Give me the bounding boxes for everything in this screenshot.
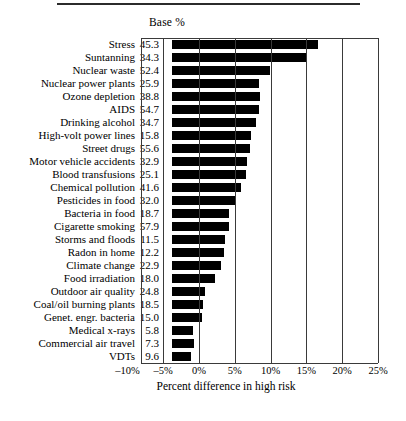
chart-row: VDTs9.6	[0, 350, 406, 363]
category-label: Street drugs	[0, 142, 139, 155]
gridline--5	[163, 38, 164, 363]
base-column-top-border	[141, 38, 163, 39]
gridline-15	[306, 38, 307, 363]
chart-row: Radon in home12.2	[0, 246, 406, 259]
base-percent-value: 45.3	[139, 38, 163, 51]
x-tick-label: 15%	[297, 364, 316, 377]
category-label: Genet. engr. bacteria	[0, 311, 139, 324]
base-percent-value: 5.8	[139, 324, 163, 337]
bar	[172, 222, 229, 232]
bar	[172, 196, 236, 206]
category-label: Outdoor air quality	[0, 285, 139, 298]
chart-row: High-volt power lines15.8	[0, 129, 406, 142]
chart-row: Stress45.3	[0, 38, 406, 51]
bar	[172, 79, 259, 89]
bar	[172, 53, 306, 63]
bar	[172, 118, 256, 128]
x-tick-label: 10%	[261, 364, 280, 377]
bar	[172, 144, 250, 154]
base-percent-value: 38.8	[139, 90, 163, 103]
category-label: Nuclear power plants	[0, 77, 139, 90]
base-percent-value: 25.9	[139, 77, 163, 90]
chart-row: Coal/oil burning plants18.5	[0, 298, 406, 311]
category-label: Motor vehicle accidents	[0, 155, 139, 168]
base-percent-value: 9.6	[139, 350, 163, 363]
base-percent-value: 15.8	[139, 129, 163, 142]
category-label: Storms and floods	[0, 233, 139, 246]
category-label: Commercial air travel	[0, 337, 139, 350]
bar	[172, 66, 270, 76]
bar	[172, 209, 229, 219]
gridline-10	[271, 38, 272, 363]
category-label: AIDS	[0, 103, 139, 116]
chart-row: Bacteria in food18.7	[0, 207, 406, 220]
x-axis-tick-labels: –10%–5%0%5%10%15%20%25%	[0, 364, 406, 378]
chart-row: Street drugs55.6	[0, 142, 406, 155]
chart-row: Chemical pollution41.6	[0, 181, 406, 194]
chart-row: Pesticides in food32.0	[0, 194, 406, 207]
bar	[172, 274, 215, 284]
bar	[172, 261, 221, 271]
base-percent-value: 25.1	[139, 168, 163, 181]
category-label: VDTs	[0, 350, 139, 363]
chart-row: Cigarette smoking57.9	[0, 220, 406, 233]
x-tick-label: 20%	[333, 364, 352, 377]
bar	[172, 326, 193, 336]
chart-row: Climate change22.9	[0, 259, 406, 272]
category-label: Drinking alcohol	[0, 116, 139, 129]
gridline-0	[199, 38, 200, 363]
base-column-left-border	[141, 38, 142, 363]
chart-row: Ozone depletion38.8	[0, 90, 406, 103]
chart-row: Medical x-rays5.8	[0, 324, 406, 337]
x-tick-label: –10%	[115, 364, 140, 377]
bar	[172, 248, 224, 258]
x-tick-label: 25%	[368, 364, 387, 377]
category-label: Suntanning	[0, 51, 139, 64]
base-percent-value: 15.0	[139, 311, 163, 324]
category-label: Radon in home	[0, 246, 139, 259]
chart-row: Outdoor air quality24.8	[0, 285, 406, 298]
base-percent-value: 32.9	[139, 155, 163, 168]
category-label: Bacteria in food	[0, 207, 139, 220]
chart-rows: Stress45.3Suntanning34.3Nuclear waste52.…	[0, 38, 406, 363]
base-percent-value: 34.7	[139, 116, 163, 129]
x-axis-title: Percent difference in high risk	[0, 380, 406, 392]
gridline-20	[342, 38, 343, 363]
base-percent-value: 24.8	[139, 285, 163, 298]
category-label: Coal/oil burning plants	[0, 298, 139, 311]
plot-right-border	[378, 38, 379, 363]
gridline-5	[235, 38, 236, 363]
chart-row: AIDS54.7	[0, 103, 406, 116]
category-label: Ozone depletion	[0, 90, 139, 103]
chart-rows-container: Stress45.3Suntanning34.3Nuclear waste52.…	[0, 38, 406, 363]
category-label: Chemical pollution	[0, 181, 139, 194]
base-percent-value: 32.0	[139, 194, 163, 207]
category-label: Nuclear waste	[0, 64, 139, 77]
chart-row: Blood transfusions25.1	[0, 168, 406, 181]
bar	[172, 92, 260, 102]
base-percent-value: 22.9	[139, 259, 163, 272]
base-percent-value: 18.5	[139, 298, 163, 311]
x-tick-label: –5%	[154, 364, 173, 377]
chart-row: Suntanning34.3	[0, 51, 406, 64]
category-label: Pesticides in food	[0, 194, 139, 207]
top-rule	[57, 3, 360, 5]
category-label: Medical x-rays	[0, 324, 139, 337]
bar	[172, 105, 259, 115]
x-tick-label: 0%	[192, 364, 206, 377]
base-percent-value: 18.7	[139, 207, 163, 220]
base-percent-value: 57.9	[139, 220, 163, 233]
chart-row: Storms and floods11.5	[0, 233, 406, 246]
x-axis-title-text: Percent difference in high risk	[110, 380, 295, 392]
category-label: Cigarette smoking	[0, 220, 139, 233]
bar	[172, 40, 318, 50]
category-label: Climate change	[0, 259, 139, 272]
base-percent-value: 54.7	[139, 103, 163, 116]
category-label: Food irradiation	[0, 272, 139, 285]
base-percent-value: 12.2	[139, 246, 163, 259]
category-label: High-volt power lines	[0, 129, 139, 142]
chart-row: Nuclear power plants25.9	[0, 77, 406, 90]
bar	[172, 313, 202, 323]
category-label: Stress	[0, 38, 139, 51]
bar	[172, 339, 194, 349]
